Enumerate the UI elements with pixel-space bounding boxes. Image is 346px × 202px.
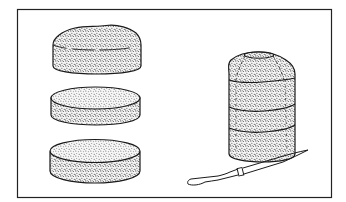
- stacked-cake: [229, 52, 296, 162]
- illustration-canvas: Line illustration showing three cake lay…: [0, 0, 346, 202]
- middle-flat-layer: [51, 87, 140, 125]
- bottom-flat-layer: [50, 140, 140, 184]
- domed-top-layer: [53, 25, 141, 74]
